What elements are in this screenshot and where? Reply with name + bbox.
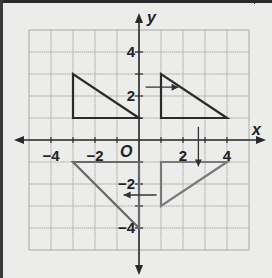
y-tick-label: 4: [127, 43, 136, 60]
y-axis-label: y: [146, 9, 157, 26]
origin-label: O: [120, 143, 133, 160]
x-tick-label: −4: [42, 147, 60, 164]
y-tick-label: −4: [118, 219, 136, 236]
x-tick-label: −2: [86, 147, 103, 164]
y-axis-up-arrow-icon: [135, 13, 143, 23]
transformation-arrows: [124, 84, 202, 199]
x-axis-left-arrow-icon: [14, 136, 24, 144]
y-tick-label: 2: [127, 87, 135, 104]
x-axis-label: x: [251, 121, 262, 138]
x-tick-label: 2: [179, 147, 187, 164]
x-tick-label: 4: [223, 147, 232, 164]
coordinate-plane: y x O −4−224 42−2−4: [0, 0, 272, 278]
y-tick-label: −2: [118, 175, 135, 192]
arrow-down-icon: [195, 127, 202, 167]
y-axis-down-arrow-icon: [135, 265, 143, 275]
